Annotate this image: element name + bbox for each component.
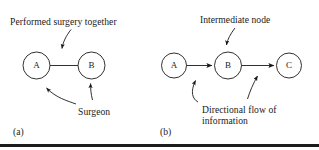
directional-flow-pointer-right (248, 76, 258, 99)
node-b2-label: B (214, 60, 242, 70)
node-c2-label: C (275, 60, 303, 70)
panel-tag-a: (a) (13, 126, 24, 137)
performed-surgery-together-pointer (62, 30, 71, 49)
label-surgeon: Surgeon (78, 106, 110, 117)
bottom-rule-divider (0, 144, 319, 147)
label-directional-flow-line2: information (202, 115, 248, 126)
node-b-label: B (78, 60, 106, 70)
panel-tag-b: (b) (160, 126, 171, 137)
node-a2-label: A (160, 60, 188, 70)
label-directional-flow-line1: Directional flow of (202, 104, 276, 115)
node-a-label: A (23, 60, 51, 70)
figure-container: Performed surgery together A B Surgeon (… (0, 0, 319, 150)
directional-flow-pointer-left (192, 81, 198, 103)
label-performed-surgery-together: Performed surgery together (10, 16, 117, 27)
label-intermediate-node: Intermediate node (200, 14, 270, 25)
intermediate-node-pointer (227, 28, 236, 45)
surgeon-pointer-left (47, 88, 77, 104)
surgeon-pointer-right (91, 84, 93, 101)
